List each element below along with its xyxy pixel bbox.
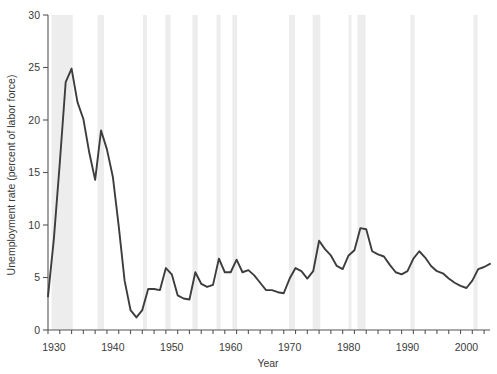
x-tick-label: 1990 (396, 341, 420, 353)
x-tick-label: 1960 (219, 341, 243, 353)
x-tick-label: 1950 (160, 341, 184, 353)
x-tick-label: 1980 (337, 341, 361, 353)
recession-band (289, 15, 295, 330)
recession-band (410, 15, 414, 330)
recession-band (357, 15, 365, 330)
y-tick-label: 5 (34, 271, 40, 283)
axes-group (48, 15, 490, 330)
recession-bands-group (52, 15, 478, 330)
recession-band (143, 15, 147, 330)
recession-band (313, 15, 321, 330)
x-tick-label: 1940 (101, 341, 125, 353)
x-tick-label: 1930 (42, 341, 66, 353)
x-tick-label: 2000 (455, 341, 479, 353)
recession-band (217, 15, 221, 330)
recession-band (52, 15, 73, 330)
y-tick-label: 15 (28, 166, 40, 178)
y-tick-label: 10 (28, 219, 40, 231)
recession-band (165, 15, 170, 330)
recession-band (349, 15, 352, 330)
recession-band (473, 15, 477, 330)
y-tick-label: 20 (28, 114, 40, 126)
recession-band (98, 15, 104, 330)
recession-band (232, 15, 237, 330)
chart-canvas: 0510152025301930194019501960197019801990… (0, 0, 497, 374)
y-tick-label: 30 (28, 9, 40, 21)
x-axis-title: Year (257, 357, 279, 369)
unemployment-chart-figure: 0510152025301930194019501960197019801990… (0, 0, 497, 374)
y-tick-label: 0 (34, 324, 40, 336)
unemployment-rate-line (48, 69, 490, 318)
x-tick-label: 1970 (278, 341, 302, 353)
y-tick-label: 25 (28, 61, 40, 73)
y-axis-title: Unemployment rate (percent of labor forc… (5, 75, 17, 276)
